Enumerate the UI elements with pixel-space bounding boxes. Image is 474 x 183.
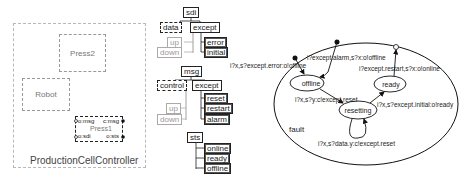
type-node-control: control: [157, 80, 187, 91]
port-marker-icon: [121, 135, 125, 139]
diagram-overlay: offline ready resetting fault i?x,s?exce…: [0, 0, 474, 183]
type-node-sts: sts: [187, 132, 203, 143]
port-marker-icon: [75, 120, 78, 123]
type-node-initial: initial: [204, 47, 228, 58]
transition-label: i?x,s?except.error:o!offline: [230, 62, 306, 70]
type-node-up-msg: up: [166, 103, 181, 114]
state-offline-label: offline: [302, 80, 321, 87]
type-node-data: data: [160, 22, 182, 33]
transition-label: i?except.restart,s?x:o!online: [359, 65, 440, 73]
transition-label: i?x,s?y:c!except.reset: [295, 96, 358, 104]
port-marker-icon: [75, 136, 78, 139]
type-node-down: down: [157, 47, 182, 58]
transition-label: i?except.alarm,s?x:o!offline: [307, 54, 386, 62]
superstate-label: fault: [289, 125, 305, 134]
transition-label: i?x,s?data.y:c!except.reset: [318, 140, 395, 148]
type-node-except: except: [190, 22, 220, 33]
transition-label: i?x,s?except.initial:o!ready: [377, 101, 454, 109]
exit-point-icon: [394, 45, 399, 50]
type-node-sdi: sdi: [183, 7, 199, 18]
type-node-restart: restart: [204, 103, 233, 114]
type-node-down-msg: down: [157, 114, 182, 125]
state-ready-label: ready: [382, 81, 400, 89]
state-resetting-label: resetting: [345, 107, 372, 115]
type-node-offline: offline: [204, 163, 231, 174]
type-node-except-msg: except: [192, 80, 222, 91]
port-marker-icon: [121, 119, 125, 123]
type-node-alarm: alarm: [204, 114, 230, 125]
type-node-msg: msg: [181, 66, 202, 77]
